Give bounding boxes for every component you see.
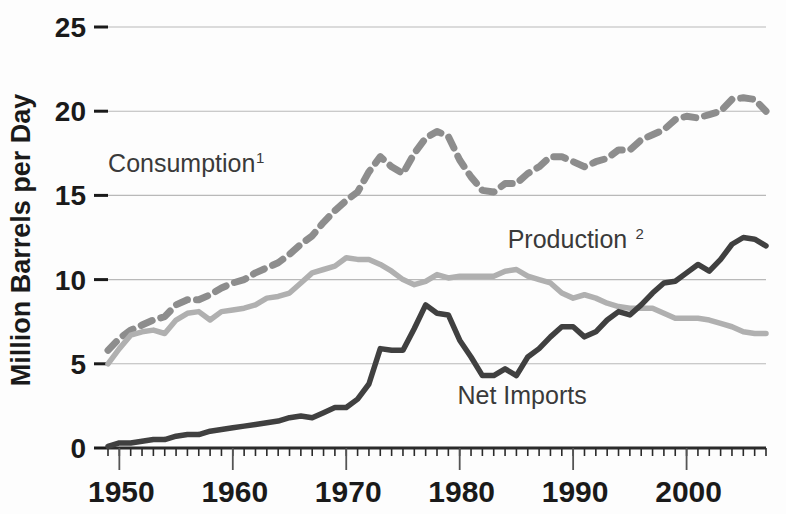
y-tick-label-10: 10 xyxy=(55,265,86,296)
y-axis-tick-labels: 0510152025 xyxy=(55,12,86,464)
y-tick-label-20: 20 xyxy=(55,96,86,127)
series-label-consumption: Consumption1 xyxy=(108,149,264,177)
series-label-text: Production xyxy=(508,225,628,253)
series-label-text: Net Imports xyxy=(457,381,586,409)
x-tick-label-1990: 1990 xyxy=(542,475,609,508)
chart-container: 0510152025 195019601970198019902000 Cons… xyxy=(0,0,786,514)
series-label-superscript: 2 xyxy=(635,225,643,242)
x-tick-label-1970: 1970 xyxy=(315,475,382,508)
x-axis-tick-labels: 195019601970198019902000 xyxy=(88,475,722,508)
x-tick-label-1950: 1950 xyxy=(88,475,155,508)
x-axis xyxy=(108,448,766,470)
series-line-net-imports xyxy=(108,238,766,447)
series-label-superscript: 1 xyxy=(256,149,264,166)
y-tick-label-5: 5 xyxy=(70,349,86,380)
x-tick-label-1960: 1960 xyxy=(201,475,268,508)
gridlines xyxy=(94,27,766,448)
series-label-net-imports: Net Imports xyxy=(457,381,586,409)
y-axis-title: Million Barrels per Day xyxy=(6,94,36,387)
y-tick-label-25: 25 xyxy=(55,12,86,43)
series-label-production: Production2 xyxy=(508,225,644,253)
x-tick-label-1980: 1980 xyxy=(428,475,495,508)
series-label-text: Consumption xyxy=(108,149,255,177)
y-tick-label-0: 0 xyxy=(70,433,86,464)
y-tick-label-15: 15 xyxy=(55,180,86,211)
x-tick-label-2000: 2000 xyxy=(655,475,722,508)
oil-supply-line-chart: 0510152025 195019601970198019902000 Cons… xyxy=(0,0,786,514)
